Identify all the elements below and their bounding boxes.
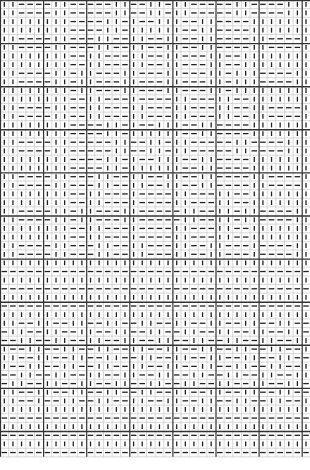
knitting-chart-grid: [0, 0, 310, 458]
knitting-chart: [0, 0, 310, 458]
